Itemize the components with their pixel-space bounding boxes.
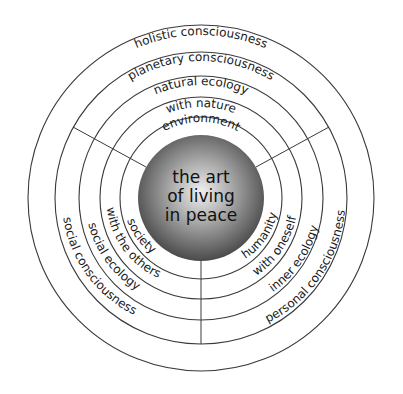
label-holistic-consciousness: holistic consciousness [132, 24, 270, 51]
divider-left [73, 127, 146, 167]
label-natural-ecology: natural ecology [151, 74, 250, 97]
center-label-line-3: in peace [165, 205, 237, 225]
label-planetary-consciousness: planetary consciousness [125, 50, 277, 83]
concentric-circle-diagram: the art of living in peace environment w… [0, 0, 403, 394]
divider-right [256, 127, 329, 167]
center-label-line-1: the art [172, 167, 230, 187]
center-label-line-2: of living [167, 186, 235, 206]
